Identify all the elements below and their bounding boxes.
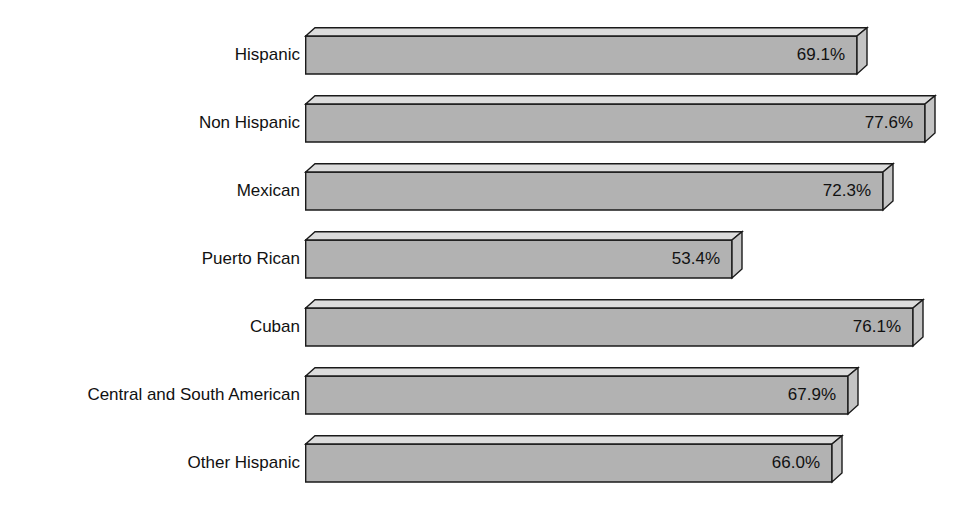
category-label: Puerto Rican <box>0 250 300 267</box>
bar-top-face <box>306 96 935 104</box>
bar-top-face <box>306 232 742 240</box>
category-label: Cuban <box>0 318 300 335</box>
bar-end-cap <box>848 368 858 414</box>
category-label: Central and South American <box>0 386 300 403</box>
bar-row: Mexican72.3% <box>0 163 960 219</box>
bar-value-label: 72.3% <box>775 182 871 199</box>
bar-value-label: 76.1% <box>805 318 901 335</box>
category-label: Hispanic <box>0 46 300 63</box>
bar-end-cap <box>857 28 867 74</box>
bar-top-face <box>306 368 858 376</box>
chart-plot-area: Hispanic69.1%Non Hispanic77.6%Mexican72.… <box>0 0 960 516</box>
bar-row: Hispanic69.1% <box>0 27 960 83</box>
bar-row: Cuban76.1% <box>0 299 960 355</box>
bar-end-cap <box>832 436 842 482</box>
bar-top-face <box>306 164 893 172</box>
bar-end-cap <box>925 96 935 142</box>
category-label: Mexican <box>0 182 300 199</box>
bar-chart-figure: Hispanic69.1%Non Hispanic77.6%Mexican72.… <box>0 0 960 516</box>
bar-end-cap <box>913 300 923 346</box>
bar-value-label: 53.4% <box>624 250 720 267</box>
bar-row: Non Hispanic77.6% <box>0 95 960 151</box>
bar-value-label: 69.1% <box>749 46 845 63</box>
bar-row: Puerto Rican53.4% <box>0 231 960 287</box>
bar-value-label: 77.6% <box>817 114 913 131</box>
bar-top-face <box>306 300 923 308</box>
bar-top-face <box>306 28 867 36</box>
bar-value-label: 66.0% <box>724 454 820 471</box>
category-label: Non Hispanic <box>0 114 300 131</box>
bar-row: Other Hispanic66.0% <box>0 435 960 491</box>
bar-end-cap <box>732 232 742 278</box>
bar-top-face <box>306 436 842 444</box>
bar-value-label: 67.9% <box>740 386 836 403</box>
category-label: Other Hispanic <box>0 454 300 471</box>
bar-end-cap <box>883 164 893 210</box>
bar-row: Central and South American67.9% <box>0 367 960 423</box>
